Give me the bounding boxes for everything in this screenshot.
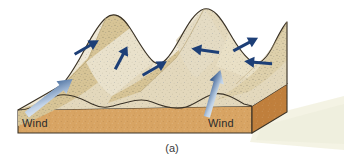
wind-label-right: Wind	[208, 118, 234, 129]
figure-caption: (a)	[0, 142, 344, 154]
dune-block-diagram	[0, 0, 344, 164]
wind-label-left: Wind	[22, 118, 48, 129]
dune-figure: Wind Wind (a)	[0, 0, 344, 164]
